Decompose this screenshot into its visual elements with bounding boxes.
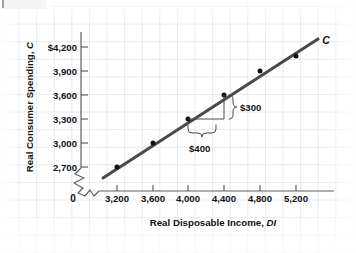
consumption-function-line (103, 39, 318, 178)
y-axis-title-italic: C (24, 41, 35, 49)
y-tick-label-3300: 3,300 (53, 114, 77, 125)
x-tick-label-5200: 5,200 (284, 193, 308, 204)
x-axis-title: Real Disposable Income, DI (150, 217, 277, 228)
x-axis-title-main: Real Disposable Income, (150, 217, 267, 228)
x-tick-label-4400: 4,400 (212, 193, 236, 204)
x-tick-label-3600: 3,600 (141, 193, 165, 204)
y-tick-label-3600: 3,600 (53, 90, 77, 101)
consumption-function-plot: $4,200 3,900 3,600 3,300 3,000 2,700 Rea… (0, 0, 356, 253)
y-tick-label-4200: $4,200 (48, 42, 77, 53)
data-point (151, 141, 156, 146)
y-tick-label-3000: 3,000 (53, 138, 77, 149)
rise-brace-icon (229, 95, 237, 119)
x-tick-label-3200: 3,200 (105, 193, 129, 204)
x-tick-label-4800: 4,800 (248, 193, 272, 204)
rise-label: $300 (240, 102, 261, 113)
run-label: $400 (189, 143, 210, 154)
series-label-c: C (322, 34, 330, 46)
y-tick-label-3900: 3,900 (53, 66, 77, 77)
y-axis-title: Real Consumer Spending, C (24, 41, 35, 172)
x-axis-title-italic: DI (267, 217, 277, 228)
y-axis-title-main: Real Consumer Spending, (24, 49, 35, 172)
chart-figure: $4,200 3,900 3,600 3,300 3,000 2,700 Rea… (0, 0, 356, 253)
x-tick-label-4000: 4,000 (176, 193, 200, 204)
data-point (115, 165, 120, 170)
run-brace-icon (188, 125, 216, 137)
data-point (258, 69, 263, 74)
origin-zero-label: 0 (70, 193, 76, 204)
data-point (294, 54, 299, 59)
axis-break-zigzag-icon (74, 168, 99, 196)
y-tick-label-2700: 2,700 (53, 162, 77, 173)
